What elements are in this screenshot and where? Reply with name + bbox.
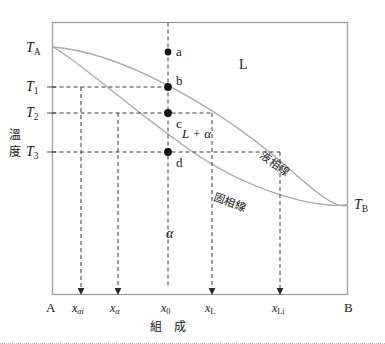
point-b xyxy=(164,83,172,91)
plot-frame xyxy=(53,23,348,295)
x-tick-label-x-alpha: xα xyxy=(110,302,120,316)
tie-lines xyxy=(53,87,281,152)
y-tick-marks xyxy=(47,87,56,152)
x-tick-label-xLi: xLi xyxy=(272,302,285,316)
x-tick-label-xL: xL xyxy=(205,302,215,316)
y-tick-label-T3: T3 xyxy=(26,145,39,161)
point-label-b: b xyxy=(176,74,183,87)
diagram-canvas xyxy=(0,0,385,344)
y-tick-label-TB: TB xyxy=(354,198,368,214)
x-axis-endpoint-B: B xyxy=(344,301,353,314)
y-tick-label-TA: TA xyxy=(26,41,41,57)
phase-diagram-figure: TA T1 T2 T3 TB 溫度 A B xαi xα x0 xL xLi 組… xyxy=(0,0,385,344)
point-label-a: a xyxy=(176,45,182,58)
point-label-c: c xyxy=(176,117,182,130)
x-tick-label-x0: x0 xyxy=(161,302,170,316)
point-label-d: d xyxy=(176,156,183,169)
region-label-alpha: α xyxy=(166,227,173,241)
region-label-liquid: L xyxy=(239,58,248,72)
point-d xyxy=(164,148,172,156)
x-axis-title: 組 成 xyxy=(150,321,186,333)
y-tick-label-T1: T1 xyxy=(26,80,39,96)
region-label-two-phase: L + α xyxy=(182,127,211,140)
x-tick-label-x-alpha-i: xαi xyxy=(72,302,84,316)
point-c xyxy=(164,109,172,117)
x-axis-endpoint-A: A xyxy=(46,301,55,314)
y-axis-title: 溫度 xyxy=(7,128,19,162)
y-tick-label-T2: T2 xyxy=(26,106,39,122)
point-a xyxy=(165,49,172,56)
